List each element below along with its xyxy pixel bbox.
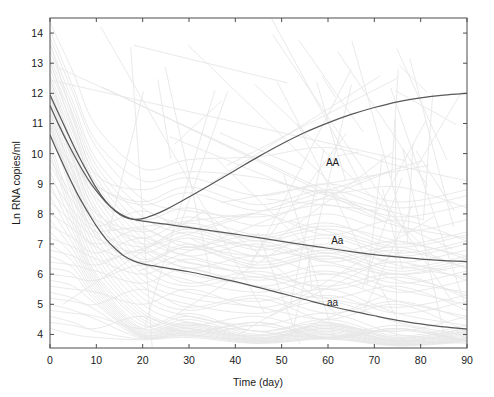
curve-label-Aa: Aa bbox=[331, 235, 344, 246]
viral-load-spaghetti-chart: 0102030405060708090 4567891011121314 AAA… bbox=[0, 0, 494, 397]
y-tick-label: 13 bbox=[31, 57, 43, 69]
x-tick-label: 90 bbox=[461, 354, 473, 366]
y-tick-label: 4 bbox=[37, 328, 43, 340]
x-axis-title: Time (day) bbox=[233, 376, 283, 388]
x-tick-label: 50 bbox=[276, 354, 288, 366]
y-tick-label: 9 bbox=[37, 178, 43, 190]
x-tick-label: 20 bbox=[137, 354, 149, 366]
y-tick-label: 6 bbox=[37, 268, 43, 280]
y-tick-label: 7 bbox=[37, 238, 43, 250]
curve-label-aa: aa bbox=[327, 297, 339, 308]
y-tick-label: 12 bbox=[31, 87, 43, 99]
y-tick-label: 5 bbox=[37, 298, 43, 310]
curve-label-AA: AA bbox=[326, 157, 340, 168]
y-tick-label: 8 bbox=[37, 208, 43, 220]
x-tick-label: 80 bbox=[415, 354, 427, 366]
y-tick-label: 11 bbox=[32, 117, 43, 129]
x-tick-label: 0 bbox=[47, 354, 53, 366]
x-tick-label: 10 bbox=[90, 354, 102, 366]
y-tick-label: 10 bbox=[31, 148, 43, 160]
y-axis-title: Ln RNA copies/ml bbox=[10, 141, 22, 224]
x-tick-label: 60 bbox=[322, 354, 334, 366]
x-tick-label: 40 bbox=[229, 354, 241, 366]
y-tick-label: 14 bbox=[31, 27, 43, 39]
figure-container: 0102030405060708090 4567891011121314 AAA… bbox=[0, 0, 494, 397]
x-tick-label: 70 bbox=[368, 354, 380, 366]
x-tick-label: 30 bbox=[183, 354, 195, 366]
